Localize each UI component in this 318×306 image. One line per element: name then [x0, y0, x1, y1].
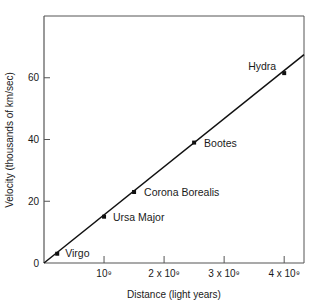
data-point-marker	[132, 190, 136, 194]
fit-line	[44, 55, 304, 263]
data-point-marker	[282, 71, 286, 75]
x-axis-label: Distance (light years)	[127, 289, 221, 300]
x-tick-label: 2 x 10⁹	[148, 268, 180, 279]
data-point-label: Ursa Major	[113, 211, 165, 223]
data-points: VirgoUrsa MajorCorona BorealisBootesHydr…	[55, 60, 286, 259]
y-tick-label: 0	[33, 258, 39, 269]
data-point-marker	[192, 141, 196, 145]
data-point-marker	[55, 252, 59, 256]
data-point-label: Corona Borealis	[144, 186, 219, 198]
plot-frame	[44, 16, 304, 263]
x-ticks: 10⁹2 x 10⁹3 x 10⁹4 x 10⁹	[96, 256, 300, 279]
hubble-law-chart: 0204060 10⁹2 x 10⁹3 x 10⁹4 x 10⁹ VirgoUr…	[0, 0, 318, 306]
data-point-label: Hydra	[248, 60, 276, 72]
data-point-label: Bootes	[204, 137, 237, 149]
x-tick-label: 3 x 10⁹	[208, 268, 240, 279]
data-point-marker	[102, 215, 106, 219]
x-tick-label: 4 x 10⁹	[268, 268, 300, 279]
y-ticks: 0204060	[28, 72, 50, 268]
y-tick-label: 20	[28, 196, 40, 207]
x-tick-label: 10⁹	[96, 268, 111, 279]
y-tick-label: 60	[28, 72, 40, 83]
data-point-label: Virgo	[65, 247, 89, 259]
y-axis-label: Velocity (thousands of km/sec)	[4, 72, 15, 208]
y-tick-label: 40	[28, 134, 40, 145]
